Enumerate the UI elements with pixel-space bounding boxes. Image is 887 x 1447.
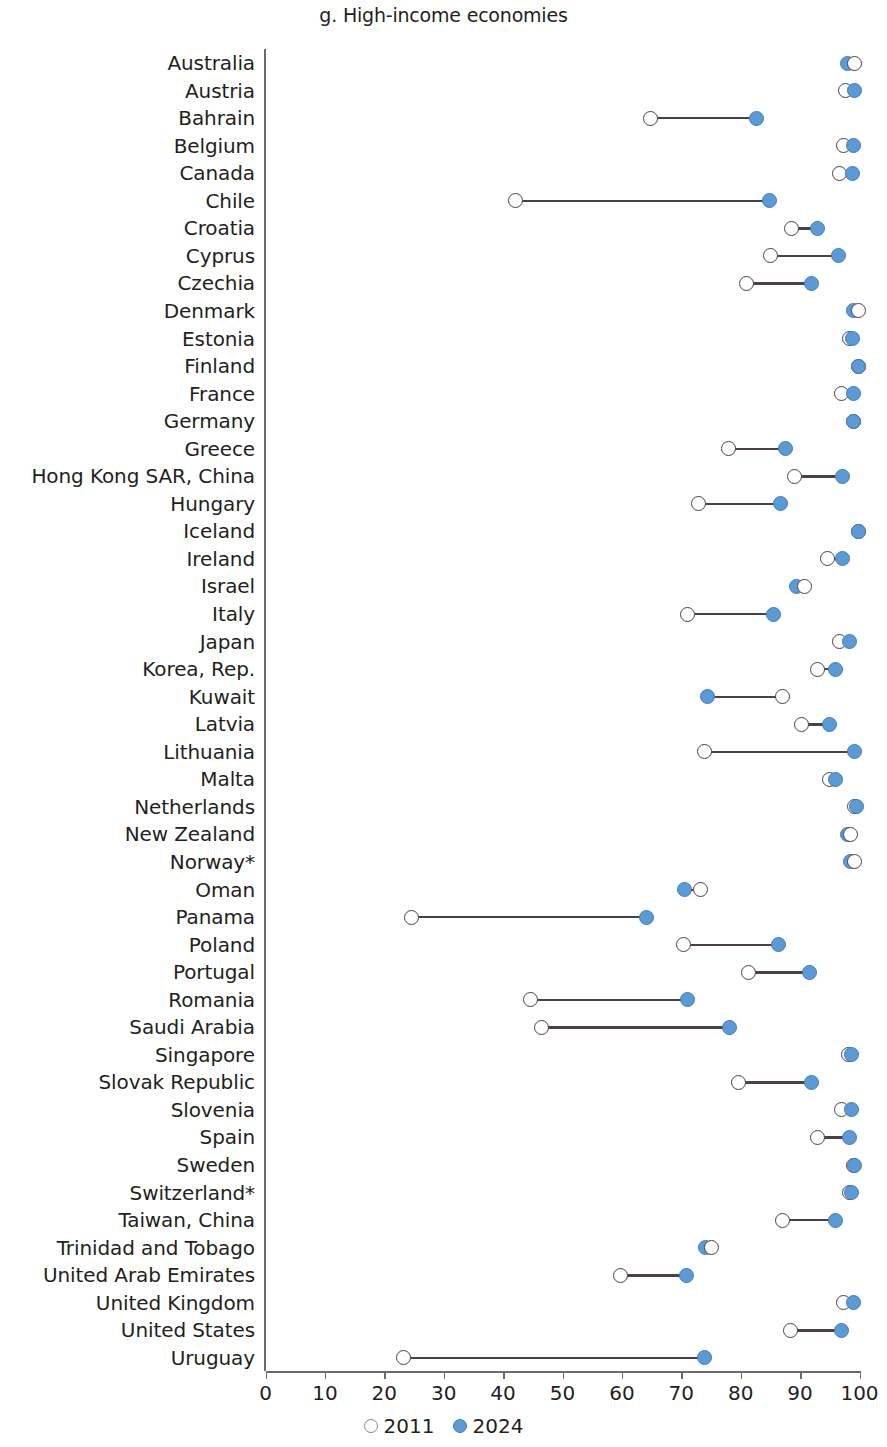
x-axis-tick: [444, 1371, 446, 1379]
data-point-2024: [845, 166, 860, 181]
data-point-2011: [643, 111, 658, 126]
data-point-2024: [835, 551, 850, 566]
x-axis-tick: [563, 1371, 565, 1379]
y-axis-category-label: Ireland: [187, 545, 255, 573]
y-axis-category-label: Portugal: [173, 958, 255, 986]
y-axis-category-label: Hong Kong SAR, China: [31, 462, 255, 490]
chart-row: Slovak Republic: [0, 1068, 887, 1096]
chart-row: Kuwait: [0, 683, 887, 711]
connector-line: [516, 200, 770, 202]
y-axis-category-label: Romania: [168, 986, 255, 1014]
data-point-2024: [846, 414, 861, 429]
data-point-2024: [677, 882, 692, 897]
data-point-2024: [844, 1047, 859, 1062]
x-axis-tick: [860, 1371, 862, 1379]
data-point-2011: [810, 662, 825, 677]
chart-row: Panama: [0, 903, 887, 931]
y-axis-category-label: France: [189, 380, 255, 408]
y-axis-category-label: Oman: [195, 876, 255, 904]
data-point-2024: [847, 744, 862, 759]
data-point-2011: [763, 248, 778, 263]
chart-row: Netherlands: [0, 793, 887, 821]
data-point-2024: [828, 772, 843, 787]
chart-row: Denmark: [0, 297, 887, 325]
data-point-2024: [842, 1130, 857, 1145]
connector-line: [404, 1357, 705, 1359]
y-axis-category-label: Slovak Republic: [99, 1068, 256, 1096]
chart-row: Malta: [0, 765, 887, 793]
data-point-2011: [775, 1213, 790, 1228]
y-axis-category-label: United States: [121, 1316, 255, 1344]
data-point-2011: [741, 965, 756, 980]
connector-line: [650, 117, 756, 119]
x-axis-tick: [741, 1371, 743, 1379]
data-point-2011: [775, 689, 790, 704]
y-axis-category-label: Israel: [201, 572, 255, 600]
y-axis-category-label: Korea, Rep.: [142, 655, 255, 683]
data-point-2011: [797, 579, 812, 594]
chart-row: Italy: [0, 600, 887, 628]
data-point-2024: [849, 799, 864, 814]
data-point-2024: [766, 607, 781, 622]
data-point-2011: [739, 276, 754, 291]
connector-line: [728, 448, 786, 450]
chart-row: Chile: [0, 187, 887, 215]
data-point-2011: [704, 1240, 719, 1255]
chart-row: Croatia: [0, 214, 887, 242]
chart-row: Poland: [0, 931, 887, 959]
chart-row: Finland: [0, 352, 887, 380]
data-point-2024: [680, 992, 695, 1007]
connector-line: [739, 1081, 812, 1083]
data-point-2024: [846, 1295, 861, 1310]
data-point-2024: [835, 469, 850, 484]
chart-row: Latvia: [0, 710, 887, 738]
data-point-2011: [697, 744, 712, 759]
y-axis-category-label: Czechia: [177, 269, 255, 297]
chart-row: Oman: [0, 876, 887, 904]
data-point-2024: [822, 717, 837, 732]
chart-row: Saudi Arabia: [0, 1013, 887, 1041]
data-point-2011: [787, 469, 802, 484]
connector-line: [748, 971, 809, 973]
y-axis-category-label: Poland: [189, 931, 255, 959]
chart-row: Singapore: [0, 1041, 887, 1069]
data-point-2024: [846, 386, 861, 401]
y-axis-category-label: Hungary: [170, 490, 255, 518]
data-point-2024: [834, 1323, 849, 1338]
y-axis-category-label: Denmark: [164, 297, 255, 325]
y-axis-category-label: Singapore: [155, 1041, 255, 1069]
chart-row: Iceland: [0, 517, 887, 545]
chart-row: Belgium: [0, 132, 887, 160]
chart-row: Germany: [0, 407, 887, 435]
legend-item-2024: 2024: [453, 1414, 524, 1438]
data-point-2011: [680, 607, 695, 622]
chart-row: Romania: [0, 986, 887, 1014]
data-point-2024: [831, 248, 846, 263]
data-point-2011: [508, 193, 523, 208]
chart-legend: 2011 2024: [0, 1414, 887, 1438]
data-point-2024: [749, 111, 764, 126]
x-axis-tick: [384, 1371, 386, 1379]
y-axis-category-label: Norway*: [170, 848, 255, 876]
data-point-2024: [802, 965, 817, 980]
y-axis-category-label: Taiwan, China: [118, 1206, 255, 1234]
data-point-2024: [851, 359, 866, 374]
data-point-2024: [846, 138, 861, 153]
chart-row: Czechia: [0, 269, 887, 297]
x-axis-tick-label: 0: [236, 1381, 296, 1405]
data-point-2011: [843, 827, 858, 842]
chart-row: Sweden: [0, 1151, 887, 1179]
y-axis-category-label: Cyprus: [186, 242, 255, 270]
data-point-2011: [613, 1268, 628, 1283]
x-axis-tick-label: 30: [414, 1381, 474, 1405]
y-axis-category-label: Trinidad and Tobago: [57, 1234, 255, 1262]
y-axis-category-label: Switzerland*: [130, 1179, 255, 1207]
y-axis-category-label: Malta: [200, 765, 255, 793]
connector-line: [412, 916, 647, 918]
y-axis-category-label: Kuwait: [189, 683, 255, 711]
chart-row: Bahrain: [0, 104, 887, 132]
chart-row: Australia: [0, 49, 887, 77]
data-point-2024: [844, 1102, 859, 1117]
y-axis-category-label: Netherlands: [134, 793, 255, 821]
open-circle-icon: [364, 1419, 378, 1433]
